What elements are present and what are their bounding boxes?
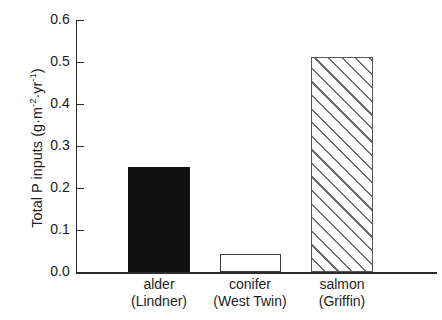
y-tick-0.2 [77, 188, 84, 189]
bar-salmon [311, 57, 373, 272]
bar-conifer [220, 254, 281, 272]
y-tick-0.5 [77, 62, 84, 63]
y-axis-title-prefix: Total P inputs (g [29, 124, 45, 228]
bar-chart-figure: 0.6 0.5 0.4 0.3 0.2 0.1 0.0 Total P inpu… [0, 0, 442, 320]
y-tick-0.4 [77, 104, 84, 105]
x-category-label-alder-line1: alder [143, 276, 174, 292]
y-tick-0.1 [77, 230, 84, 231]
y-axis-title-mid2: yr [29, 82, 45, 94]
y-axis-title-sup1: -2 [27, 99, 38, 107]
y-tick-0.3 [77, 146, 84, 147]
y-tick-0.6 [77, 20, 84, 21]
x-category-label-salmon-line2: (Griffin) [282, 293, 402, 310]
y-axis-title-mid: m [29, 107, 45, 119]
y-axis-title-dot1: · [29, 119, 45, 124]
y-axis-title: Total P inputs (g·m-2·yr-1) [29, 23, 45, 273]
y-tick-0.0 [77, 272, 84, 273]
x-category-label-salmon: salmon (Griffin) [282, 276, 402, 310]
y-axis-title-dot2: · [29, 94, 45, 99]
y-axis-title-sup2: -1 [27, 73, 38, 81]
bar-alder [128, 167, 190, 272]
y-axis-title-suffix: ) [29, 68, 45, 73]
x-category-label-conifer-line1: conifer [229, 276, 271, 292]
x-category-label-salmon-line1: salmon [319, 276, 364, 292]
x-axis-line [76, 272, 437, 274]
